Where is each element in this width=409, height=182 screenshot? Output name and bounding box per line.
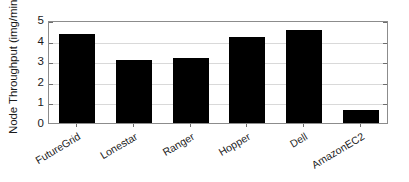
x-axis-category-labels: FutureGridLonestarRangerHopperDellAmazon… [48, 124, 388, 182]
bar [116, 60, 152, 123]
x-tick-mark [190, 124, 191, 127]
bar-series [49, 22, 387, 123]
x-tick-mark [76, 124, 77, 127]
x-tick-mark [303, 124, 304, 127]
plot-area [48, 21, 388, 124]
y-tick-label: 2 [30, 77, 44, 89]
bar [229, 37, 265, 123]
y-tick-label: 4 [30, 36, 44, 48]
x-tick-label-text: Lonestar [98, 130, 139, 161]
y-tick-label: 0 [30, 118, 44, 130]
bar [173, 58, 209, 123]
bar [343, 110, 379, 123]
y-tick-label: 5 [30, 15, 44, 27]
x-tick-label-text: Ranger [160, 130, 196, 158]
x-tick-mark [246, 124, 247, 127]
x-tick-mark [133, 124, 134, 127]
y-axis-title: Node Throughput (img/min) [4, 4, 22, 134]
x-tick-label-text: Hopper [217, 130, 253, 158]
x-tick-mark [360, 124, 361, 127]
x-tick-label-text: Dell [287, 130, 309, 150]
y-tick-label: 1 [30, 97, 44, 109]
y-tick-label: 3 [30, 56, 44, 68]
x-tick-label-text: AmazonEC2 [309, 130, 366, 171]
bar-chart-figure: Node Throughput (img/min) 012345 FutureG… [0, 0, 409, 182]
bar [59, 34, 95, 123]
bar [286, 30, 322, 123]
